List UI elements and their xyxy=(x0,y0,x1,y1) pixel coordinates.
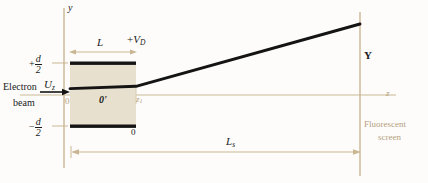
screen-distance-arrow-left xyxy=(71,149,79,155)
beam-arrow-head xyxy=(62,89,70,95)
plate-length-arrow-left xyxy=(69,50,76,55)
plate-voltage-label: +VD xyxy=(127,34,145,46)
plate-length-arrow-right xyxy=(130,50,137,55)
inner-origin-label: 0' xyxy=(99,95,107,105)
beam-velocity-label: Uz xyxy=(44,79,55,91)
bottom-gap-fraction: d2 xyxy=(35,117,42,138)
origin-label: 0 xyxy=(65,97,70,106)
bottom-gap-denominator: 2 xyxy=(35,128,42,138)
plate-voltage-subscript: D xyxy=(140,38,145,47)
z-axis-label: z xyxy=(386,89,390,98)
bottom-deflecting-plate xyxy=(70,125,136,128)
fluorescent-screen-label-line2: screen xyxy=(378,133,401,142)
top-deflecting-plate xyxy=(70,62,136,65)
top-gap-fraction: d2 xyxy=(35,54,42,75)
beam-velocity-symbol: U xyxy=(44,78,52,90)
y-axis-label: y xyxy=(68,3,72,13)
beam-velocity-subscript: z xyxy=(52,83,55,92)
fluorescent-screen-label-line1: Fluorescent xyxy=(364,120,406,129)
screen-distance-label: Ls xyxy=(226,136,235,148)
plate-bottom-zero-label: 0 xyxy=(131,128,136,137)
electron-beam-label-line1: Electron xyxy=(3,82,37,92)
screen-distance-subscript: s xyxy=(232,140,235,149)
electron-deflection-diagram: y z 0 0' z1 0 Electron beam Uz L +VD +d2… xyxy=(0,0,428,183)
plate-length-label: L xyxy=(97,37,103,48)
plate-exit-subscript: 1 xyxy=(140,98,143,104)
plate-exit-label: z1 xyxy=(136,95,143,104)
plate-voltage-symbol: V xyxy=(133,33,140,45)
deflection-label: Y xyxy=(364,50,372,61)
top-gap-denominator: 2 xyxy=(35,65,42,75)
top-gap-label: +d2 xyxy=(29,54,42,75)
electron-beam-label-line2: beam xyxy=(13,98,35,108)
bottom-gap-label: −d2 xyxy=(29,117,42,138)
diagram-vector-layer xyxy=(0,0,428,183)
